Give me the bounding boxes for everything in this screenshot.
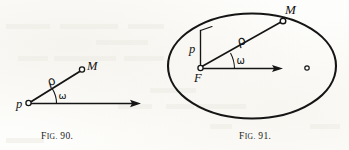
angle-arc-fig91 (231, 53, 235, 69)
semi-latus-rectum-label-fig91: p (188, 42, 195, 56)
figure-91: p ρ ω F M FIG.91. (0, 0, 349, 150)
figure-91-caption-number: 91. (258, 131, 271, 141)
ellipse-curve-fig91 (168, 14, 336, 119)
scanned-page: p ρ ω M FIG.90. (0, 0, 349, 150)
point-m-marker-fig91 (280, 18, 286, 24)
figure-91-drawing: p ρ ω F M (0, 0, 349, 150)
angle-label-fig91: ω (237, 55, 245, 66)
focus-marker-fig91 (198, 65, 203, 70)
polar-axis-fig91 (202, 65, 283, 72)
point-m-label-fig91: M (284, 2, 297, 17)
second-focus-marker-fig91 (305, 66, 309, 70)
semi-latus-rectum-top-tick-fig91 (201, 27, 213, 31)
figure-91-caption: FIG.91. (239, 125, 271, 143)
focus-label-fig91: F (193, 71, 202, 85)
figure-91-caption-rest: IG. (245, 132, 256, 141)
